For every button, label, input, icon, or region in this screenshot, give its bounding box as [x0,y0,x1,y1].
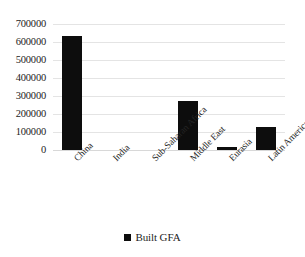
x-axis-tick-label: Latin America [266,156,273,163]
bar-slot [246,24,285,150]
bar-slot [53,24,92,150]
x-axis-tick-label: Eurasia [227,156,234,163]
y-axis-tick-label: 200000 [16,109,46,119]
chart-legend: Built GFA [0,232,305,243]
bar[interactable] [62,36,82,150]
y-axis: 7000006000005000004000003000002000001000… [0,0,52,160]
bar-slot [92,24,131,150]
x-axis-tick-label: Sub-Saharan Africa [150,156,157,163]
legend-swatch-built-gfa [124,234,131,241]
bar[interactable] [256,127,276,150]
x-axis: ChinaIndiaSub-Saharan AfricaMiddle EastE… [53,150,285,220]
y-axis-tick-label: 500000 [16,55,46,65]
x-axis-tick-label: China [72,156,79,163]
y-axis-tick-label: 0 [41,145,46,155]
bar-slot [130,24,169,150]
bar-chart: 7000006000005000004000003000002000001000… [0,0,305,257]
y-axis-tick-label: 600000 [16,37,46,47]
bar-series-built-gfa [53,24,285,150]
legend-label-built-gfa: Built GFA [135,232,180,243]
y-axis-tick-label: 700000 [16,19,46,29]
x-axis-tick-label: Middle East [188,156,195,163]
y-axis-tick-label: 100000 [16,127,46,137]
y-axis-tick-label: 300000 [16,91,46,101]
plot-area [53,24,285,150]
y-axis-tick-label: 400000 [16,73,46,83]
x-axis-tick-label: India [111,156,118,163]
